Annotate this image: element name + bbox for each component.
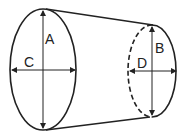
top-edge [46,9,153,25]
truncated-cone-diagram: A C B D [0,0,192,135]
label-d: D [137,55,147,71]
label-a: A [45,31,55,47]
label-c: C [24,54,34,70]
label-b: B [155,40,164,56]
